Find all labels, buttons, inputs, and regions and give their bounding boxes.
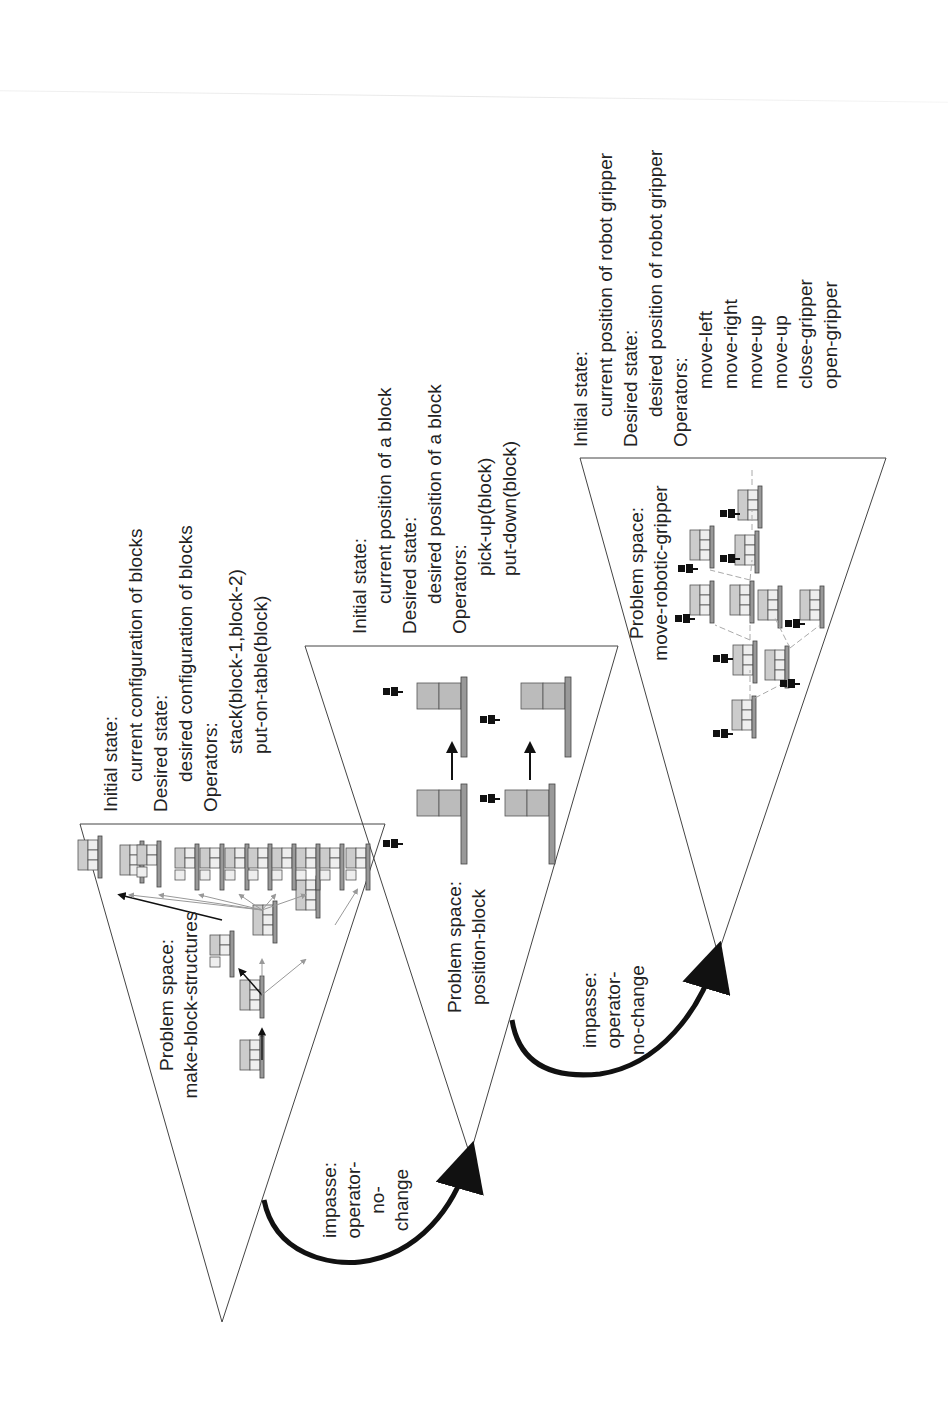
operator-item: put-on-table(block) xyxy=(248,525,273,812)
info-position-block: Initial state: current position of a blo… xyxy=(347,384,522,634)
operator-item: pick-up(block) xyxy=(472,384,497,634)
operator-item: move-up xyxy=(743,150,768,447)
impasse-line: operator- xyxy=(602,960,626,1060)
initial-state-label: Initial state: xyxy=(98,525,123,812)
title-line: move-robotic-gripper xyxy=(649,458,673,688)
desired-state-label: Desired state: xyxy=(618,150,643,447)
info-make-block-structures: Initial state: current configuration of … xyxy=(98,525,273,812)
operator-item: put-down(block) xyxy=(497,384,522,634)
initial-state-value: current position of a block xyxy=(372,384,397,634)
operator-item: open-gripper xyxy=(818,150,843,447)
operator-item: move-right xyxy=(718,150,743,447)
position-block-scenes xyxy=(383,677,571,864)
desired-state-value: desired position of a block xyxy=(422,384,447,634)
info-move-robotic-gripper: Initial state: current position of robot… xyxy=(568,150,843,447)
initial-state-label: Initial state: xyxy=(347,384,372,634)
impasse-label-2: impasse: operator- no-change xyxy=(578,960,650,1060)
impasse-line: no-change xyxy=(626,960,650,1060)
title-line: Problem space: xyxy=(443,877,467,1017)
impasse-label-1: impasse: operator- no- change xyxy=(318,1150,414,1250)
space-title-position-block: Problem space: position-block xyxy=(443,877,491,1017)
operator-item: move-left xyxy=(693,150,718,447)
operators-label: Operators: xyxy=(198,525,223,812)
impasse-line: impasse: xyxy=(578,960,602,1060)
impasse-line: no- xyxy=(366,1150,390,1250)
desired-state-value: desired configuration of blocks xyxy=(173,525,198,812)
space-title-move-robotic-gripper: Problem space: move-robotic-gripper xyxy=(625,458,673,688)
gripper-search-graph xyxy=(675,468,824,738)
impasse-line: impasse: xyxy=(318,1150,342,1250)
initial-state-label: Initial state: xyxy=(568,150,593,447)
impasse-line: operator- xyxy=(342,1150,366,1250)
operators-label: Operators: xyxy=(668,150,693,447)
operator-item: stack(block-1,block-2) xyxy=(223,525,248,812)
title-line: make-block-structures xyxy=(179,870,203,1140)
block-search-tree xyxy=(78,836,370,1078)
operator-item: close-gripper xyxy=(793,150,818,447)
title-line: Problem space: xyxy=(155,870,179,1140)
desired-state-label: Desired state: xyxy=(148,525,173,812)
initial-state-value: current position of robot gripper xyxy=(593,150,618,447)
title-line: Problem space: xyxy=(625,458,649,688)
desired-state-label: Desired state: xyxy=(397,384,422,634)
desired-state-value: desired position of robot gripper xyxy=(643,150,668,447)
impasse-line: change xyxy=(390,1150,414,1250)
initial-state-value: current configuration of blocks xyxy=(123,525,148,812)
title-line: position-block xyxy=(467,877,491,1017)
operator-item: move-up xyxy=(768,150,793,447)
operators-label: Operators: xyxy=(447,384,472,634)
space-title-make-block-structures: Problem space: make-block-structures xyxy=(155,870,203,1140)
